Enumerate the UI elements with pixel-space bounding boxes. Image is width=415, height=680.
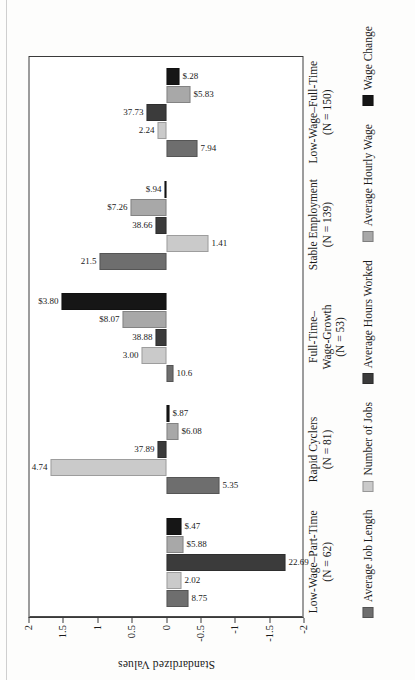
bar xyxy=(99,253,166,270)
bar xyxy=(166,554,286,571)
bar xyxy=(141,347,165,364)
y-axis-tick-label: 0.5 xyxy=(126,625,137,659)
bar-value-label: 38.66 xyxy=(131,220,151,230)
y-axis-tick-label: -1.5 xyxy=(263,625,274,659)
chart-legend: Average Job LengthNumber of JobsAverage … xyxy=(356,18,378,618)
bar xyxy=(61,293,166,310)
bar-groups: 8.752.0222.69$5.88$.475.354.7437.89$6.08… xyxy=(28,56,303,618)
category-count: (N = 62) xyxy=(320,510,334,613)
chart-stage: Standardized Values 21.510.50-0.5-1-1.5-… xyxy=(0,0,415,680)
bar-group: 10.63.0038.88$8.07$3.80 xyxy=(28,281,303,393)
bar-value-label: 1.41 xyxy=(211,238,227,248)
bar-value-label: 2.24 xyxy=(139,125,155,135)
bar-group: 8.752.0222.69$5.88$.47 xyxy=(28,506,303,618)
category-label-line: Rapid Cyclers xyxy=(306,417,320,482)
y-axis-tick-label: -2 xyxy=(298,625,309,659)
bar-value-label: $3.80 xyxy=(38,296,58,306)
category-count: (N = 150) xyxy=(320,61,334,164)
bar xyxy=(164,181,166,198)
legend-swatch-icon xyxy=(362,481,373,492)
category-count: (N = 139) xyxy=(320,179,334,270)
legend-swatch-icon xyxy=(362,95,373,106)
bar-value-label: 22.69 xyxy=(288,557,308,567)
bar-value-label: 4.74 xyxy=(31,462,47,472)
bar xyxy=(166,68,180,85)
y-axis-tick xyxy=(200,618,201,623)
bar xyxy=(50,459,166,476)
bar xyxy=(155,217,166,234)
y-axis-tick-label: 0 xyxy=(160,625,171,659)
legend-label: Average Hours Worked xyxy=(361,260,373,368)
y-axis-tick-label: 1.5 xyxy=(57,625,68,659)
bar-value-label: $.28 xyxy=(182,71,198,81)
legend-item[interactable]: Wage Change xyxy=(361,26,373,106)
bar-group: 5.354.7437.89$6.08$.87 xyxy=(28,393,303,505)
bar xyxy=(130,199,166,216)
y-axis-tick-label: 2 xyxy=(23,625,34,659)
bar xyxy=(166,572,181,589)
bar-value-label: 3.00 xyxy=(123,350,139,360)
bar xyxy=(166,536,184,553)
bar-value-label: 8.75 xyxy=(191,593,207,603)
y-axis-tick xyxy=(234,618,235,623)
bar-value-label: 5.35 xyxy=(222,480,238,490)
legend-label: Number of Jobs xyxy=(361,402,373,475)
y-axis-tick xyxy=(28,618,29,623)
category-label: Low-Wage–Full-Time(N = 150) xyxy=(306,61,333,164)
category-label-line: Full-Time– xyxy=(306,305,320,370)
legend-label: Average Hourly Wage xyxy=(361,124,373,226)
bar-value-label: 2.02 xyxy=(184,575,200,585)
legend-swatch-icon xyxy=(362,231,373,242)
bar-group: 21.51.4138.66$7.26$.94 xyxy=(28,168,303,280)
legend-item[interactable]: Average Job Length xyxy=(361,510,373,618)
y-axis-tick-label: -0.5 xyxy=(194,625,205,659)
bar-value-label: $5.88 xyxy=(186,539,206,549)
bar-value-label: 21.5 xyxy=(80,256,96,266)
bar xyxy=(166,518,181,535)
y-axis-title-text: Standardized Values xyxy=(117,659,214,671)
bar xyxy=(166,140,198,157)
bar xyxy=(166,86,191,103)
legend-item[interactable]: Number of Jobs xyxy=(361,402,373,491)
category-label-line: Low-Wage–Part-Time xyxy=(306,510,320,613)
bar-value-label: 37.73 xyxy=(123,107,143,117)
y-axis-tick xyxy=(97,618,98,623)
bar xyxy=(146,104,165,121)
bar-value-label: 37.89 xyxy=(133,444,153,454)
bar xyxy=(166,477,220,494)
category-label: Rapid Cyclers(N = 81) xyxy=(306,417,333,482)
y-axis-tick xyxy=(131,618,132,623)
category-label-line: Wage-Growth xyxy=(320,305,334,370)
legend-label: Wage Change xyxy=(361,26,373,90)
category-label: Stable Employment(N = 139) xyxy=(306,179,333,270)
bar xyxy=(166,365,174,382)
bar xyxy=(122,311,166,328)
bar-value-label: $.87 xyxy=(172,408,188,418)
bar-value-label: $6.08 xyxy=(181,426,201,436)
y-axis-tick xyxy=(166,618,167,623)
bar-value-label: $7.26 xyxy=(107,202,127,212)
bar xyxy=(166,405,169,422)
legend-swatch-icon xyxy=(362,607,373,618)
y-axis-tick-label: 1 xyxy=(91,625,102,659)
bar-value-label: $.94 xyxy=(145,184,161,194)
category-labels: Low-Wage–Part-Time(N = 62)Rapid Cyclers(… xyxy=(306,56,346,618)
bar-value-label: 38.88 xyxy=(131,332,151,342)
legend-item[interactable]: Average Hours Worked xyxy=(361,260,373,384)
category-count: (N = 53) xyxy=(333,305,347,370)
bar xyxy=(166,590,188,607)
legend-item[interactable]: Average Hourly Wage xyxy=(361,124,373,242)
bar xyxy=(166,235,209,252)
bar-value-label: $5.83 xyxy=(193,89,213,99)
bar-value-label: 10.6 xyxy=(176,368,192,378)
category-label: Full-Time–Wage-Growth(N = 53) xyxy=(306,305,347,370)
legend-swatch-icon xyxy=(362,373,373,384)
category-label-line: Stable Employment xyxy=(306,179,320,270)
bar xyxy=(155,329,166,346)
category-label: Low-Wage–Part-Time(N = 62) xyxy=(306,510,333,613)
bar-value-label: $8.07 xyxy=(98,314,118,324)
bar xyxy=(157,122,165,139)
chart-page: Standardized Values 21.510.50-0.5-1-1.5-… xyxy=(0,0,415,680)
category-count: (N = 81) xyxy=(320,417,334,482)
y-axis-tick xyxy=(269,618,270,623)
